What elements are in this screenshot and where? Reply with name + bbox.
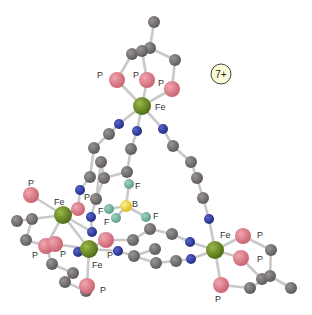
atom-c [26, 213, 38, 225]
atom-c [144, 223, 156, 235]
molecular-structure: PPPFePFePFBFFFPPPFePFePPP 7+ [0, 0, 312, 315]
atom-c [88, 142, 100, 154]
atom-label: P [100, 285, 106, 295]
atom-label: P [32, 250, 38, 260]
atom-n [114, 119, 124, 129]
atom-fe [133, 97, 151, 115]
atom-c [264, 270, 276, 282]
atom-p [98, 232, 114, 248]
atoms-layer [11, 16, 297, 297]
charge-badge: 7+ [211, 64, 231, 84]
atom-n [158, 124, 168, 134]
atom-c [197, 192, 209, 204]
atom-label: F [135, 181, 141, 191]
atom-label: Fe [54, 197, 65, 207]
atom-label: P [133, 70, 139, 80]
atom-c [46, 258, 58, 270]
atom-label: Fe [155, 102, 166, 112]
atom-c [67, 267, 79, 279]
atom-c [136, 45, 148, 57]
atom-label: P [84, 192, 90, 202]
atom-p [233, 250, 249, 266]
charge-label: 7+ [215, 69, 227, 80]
atom-c [125, 143, 137, 155]
atom-b [120, 200, 132, 212]
atom-c [20, 234, 32, 246]
atom-label: Fe [220, 230, 231, 240]
atom-c [148, 16, 160, 28]
atom-label: P [257, 254, 263, 264]
atom-c [95, 156, 107, 168]
atom-label: P [158, 78, 164, 88]
atom-f [141, 212, 151, 222]
atom-c [285, 282, 297, 294]
atom-p [213, 277, 229, 293]
atom-c [167, 140, 179, 152]
atom-n [204, 214, 214, 224]
atom-c [84, 171, 96, 183]
atom-p [235, 228, 251, 244]
atom-c [166, 228, 178, 240]
atom-c [265, 244, 277, 256]
atom-label: F [98, 206, 104, 216]
atom-f [104, 204, 114, 214]
atom-c [103, 128, 115, 140]
atom-c [128, 250, 140, 262]
atom-label: F [104, 217, 110, 227]
atom-c [59, 276, 71, 288]
atom-label: P [28, 178, 34, 188]
atom-n [87, 227, 97, 237]
atom-c [98, 172, 110, 184]
atom-c [169, 54, 181, 66]
atom-f [124, 179, 134, 189]
atom-p [139, 72, 155, 88]
atom-n [113, 246, 123, 256]
atom-c [150, 257, 162, 269]
atom-label: P [107, 250, 113, 260]
atom-c [127, 234, 139, 246]
atom-p [71, 202, 85, 216]
atom-p [164, 81, 180, 97]
atom-p [109, 72, 125, 88]
atom-c [191, 172, 203, 184]
atom-n [132, 126, 142, 136]
atom-label: P [97, 70, 103, 80]
atom-label: Fe [92, 260, 103, 270]
atom-label: P [215, 294, 221, 304]
atom-c [90, 193, 102, 205]
atom-f [111, 213, 121, 223]
atom-label: F [153, 211, 159, 221]
atom-label: P [60, 249, 66, 259]
atom-n [86, 212, 96, 222]
atom-fe [206, 241, 224, 259]
atom-c [121, 166, 133, 178]
atom-label: B [132, 199, 138, 209]
molecule-diagram: PPPFePFePFBFFFPPPFePFePPP 7+ [0, 0, 312, 315]
atom-n [185, 237, 195, 247]
atom-c [170, 255, 182, 267]
atom-c [244, 282, 256, 294]
atom-c [149, 243, 161, 255]
atom-p [79, 278, 95, 294]
atom-n [186, 254, 196, 264]
atom-label: P [257, 230, 263, 240]
atom-fe [80, 240, 98, 258]
atom-c [11, 215, 23, 227]
atom-fe [54, 206, 72, 224]
atom-c [185, 156, 197, 168]
atom-p [23, 187, 39, 203]
